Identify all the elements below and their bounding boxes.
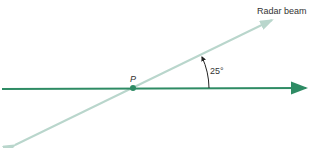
radar-beam-label: Radar beam	[257, 6, 307, 16]
horizontal-line	[2, 88, 306, 89]
angle-arc	[202, 57, 209, 88]
radar-beam-line	[15, 20, 272, 145]
point-p-marker	[130, 85, 136, 91]
angle-label: 25°	[210, 66, 224, 76]
point-p-label: P	[130, 74, 136, 84]
diagram-canvas	[0, 0, 311, 148]
